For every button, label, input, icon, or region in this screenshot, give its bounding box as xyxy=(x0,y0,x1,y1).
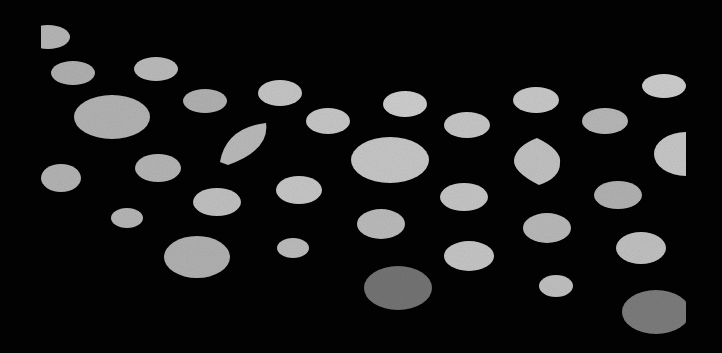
disc xyxy=(444,241,494,271)
disc xyxy=(277,238,309,258)
disc xyxy=(523,213,571,243)
disc-dark xyxy=(622,290,690,334)
disc xyxy=(582,108,628,134)
disc xyxy=(440,183,488,211)
disc-lens xyxy=(514,138,560,185)
disc xyxy=(74,95,150,139)
disc xyxy=(276,176,322,204)
disc xyxy=(135,154,181,182)
disc xyxy=(513,87,559,113)
disc xyxy=(111,208,143,228)
disc xyxy=(616,232,666,264)
disc xyxy=(193,188,241,216)
disc xyxy=(164,236,230,278)
disc-dark xyxy=(364,266,432,310)
disc xyxy=(642,74,686,98)
disc-lens xyxy=(220,123,266,165)
disc xyxy=(134,57,178,81)
right-black-border xyxy=(686,0,722,353)
disc-layer xyxy=(0,0,722,353)
disc xyxy=(258,80,302,106)
disc xyxy=(183,89,227,113)
left-black-border xyxy=(0,0,41,353)
photo-scene xyxy=(0,0,722,353)
disc xyxy=(41,164,81,192)
disc xyxy=(444,112,490,138)
disc xyxy=(51,61,95,85)
disc xyxy=(357,209,405,239)
disc xyxy=(351,137,429,183)
disc xyxy=(539,275,573,297)
disc xyxy=(306,108,350,134)
disc xyxy=(594,181,642,209)
disc xyxy=(383,91,427,117)
